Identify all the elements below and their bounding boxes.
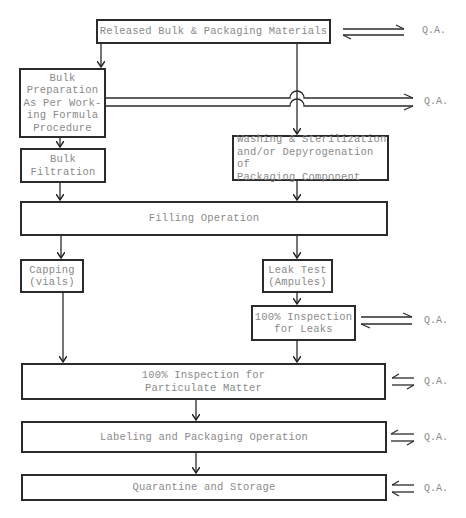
node-released-materials: Released Bulk & Packaging Materials [96,19,331,44]
node-bulk-preparation: Bulk Preparation As Per Work- ing Formul… [19,68,106,138]
node-quarantine-storage: Quarantine and Storage [21,474,387,501]
node-inspection-leaks: 100% Inspection for Leaks [251,305,356,341]
edge-bulkprep-qa-upper [105,91,413,98]
node-labeling-packaging: Labeling and Packaging Operation [21,421,387,453]
qa-label-inspection-leaks: Q.A. [424,315,448,326]
node-washing-sterilization: Washing & Sterilization and/or Depyrogen… [232,135,389,181]
qa-label-bulk-prep: Q.A. [424,96,448,107]
qa-label-quarantine: Q.A. [424,483,448,494]
qa-label-inspection-particulate: Q.A. [424,376,448,387]
flowchart-canvas: Released Bulk & Packaging Materials Bulk… [0,0,466,518]
qa-label-labeling: Q.A. [424,432,448,443]
qa-label-released: Q.A. [422,25,446,36]
node-bulk-filtration: Bulk Filtration [20,148,106,183]
node-leak-test-ampules: Leak Test (Ampules) [262,259,333,293]
node-filling-operation: Filling Operation [20,201,388,236]
node-inspection-particulate: 100% Inspection for Particulate Matter [21,363,386,400]
node-capping-vials: Capping (vials) [20,259,84,293]
edge-bulkprep-qa-lower [105,99,413,106]
